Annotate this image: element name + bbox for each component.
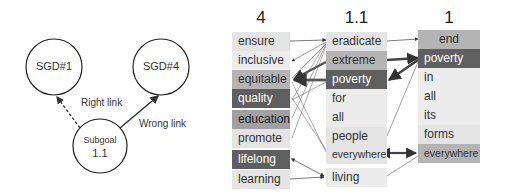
- token-living: living: [326, 168, 387, 187]
- subgoal-number: 1.1: [75, 147, 125, 159]
- token-all-sgd1: all: [418, 87, 480, 106]
- token-everywhere-sgd1: everywhere: [418, 144, 480, 163]
- token-everywhere: everywhere: [326, 145, 387, 164]
- token-poverty-sgd1: poverty: [418, 49, 480, 68]
- token-promote: promote: [232, 129, 290, 148]
- sgd4-label: SGD#4: [133, 60, 189, 72]
- token-people: people: [326, 127, 387, 146]
- token-learning: learning: [232, 170, 290, 189]
- column-header-sgd1: 1: [418, 8, 480, 28]
- token-ensure: ensure: [232, 32, 290, 51]
- sgd1-label: SGD#1: [26, 60, 82, 72]
- subgoal-label: Subgoal: [75, 135, 125, 145]
- right-link-edge: [57, 97, 80, 128]
- token-quality: quality: [232, 89, 290, 108]
- wrong-link-label: Wrong link: [139, 118, 186, 129]
- token-its: its: [418, 106, 480, 125]
- token-education: education: [232, 110, 290, 129]
- token-all: all: [326, 108, 387, 127]
- token-for: for: [326, 89, 387, 108]
- token-end: end: [418, 30, 480, 49]
- token-extreme: extreme: [326, 51, 387, 70]
- token-in: in: [418, 68, 480, 87]
- token-poverty: poverty: [326, 70, 387, 89]
- token-inclusive: inclusive: [232, 51, 290, 70]
- column-header-subgoal: 1.1: [326, 8, 387, 28]
- token-eradicate: eradicate: [326, 32, 387, 51]
- subgoal-node: [73, 119, 127, 173]
- token-forms: forms: [418, 125, 480, 144]
- right-link-label: Right link: [81, 97, 122, 108]
- token-lifelong: lifelong: [232, 150, 290, 169]
- column-header-sgd4: 4: [232, 8, 290, 28]
- token-equitable: equitable: [232, 70, 290, 89]
